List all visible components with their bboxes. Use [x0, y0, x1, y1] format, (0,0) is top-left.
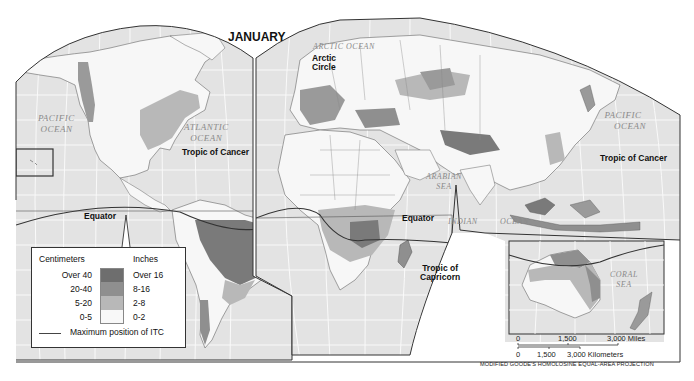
scale-km-zero: 0: [516, 350, 520, 359]
atlantic-line1: ATLANTIC: [184, 122, 229, 133]
legend-header-cm: Centimeters: [39, 254, 85, 264]
scale-km-max: 3,000 Kilometers: [567, 350, 623, 359]
ocean-label-pacific-east: PACIFIC OCEAN: [600, 110, 646, 132]
ocean-label-ocean: OCEAN: [500, 217, 529, 227]
australia-inset: [509, 241, 664, 334]
legend: Centimeters Inches Over 40 Over 16 20-40…: [31, 247, 186, 348]
equator-label-west: Equator: [84, 212, 116, 221]
scale-bar: [518, 343, 618, 349]
scale-miles-zero: 0: [516, 334, 520, 343]
itc-label: Maximum position of ITC: [70, 327, 164, 337]
ocean-label-arctic: ARCTIC OCEAN: [313, 42, 375, 52]
ocean-label-coral-sea: CORAL SEA: [610, 270, 638, 289]
legend-row-0-in: Over 16: [133, 268, 163, 282]
ocean-label-indian: INDIAN: [448, 217, 478, 227]
atlantic-line2: OCEAN: [184, 133, 229, 144]
arctic-circle-label: Arctic Circle: [312, 54, 336, 72]
pacific-east-line2: OCEAN: [614, 121, 646, 132]
map-title: JANUARY: [228, 31, 286, 44]
arabian-line2: SEA: [426, 182, 462, 192]
legend-swatch-over-40: [100, 268, 124, 282]
itc-line-symbol: [39, 333, 61, 334]
legend-swatch-20-40: [100, 282, 124, 296]
tropic-of-capricorn-label: Tropic of Capricorn: [420, 264, 460, 282]
projection-label: MODIFIED GOODE'S HOMOLOSINE EQUAL-AREA P…: [480, 361, 654, 367]
capricorn-line2: Capricorn: [420, 273, 460, 282]
ocean-label-atlantic: ATLANTIC OCEAN: [184, 122, 229, 144]
tropic-of-cancer-label-west: Tropic of Cancer: [182, 148, 249, 157]
legend-row-1-in: 8-16: [133, 282, 150, 296]
legend-row-3-in: 0-2: [133, 310, 145, 324]
legend-swatch-0-5: [100, 310, 124, 324]
ocean-label-arabian-sea: ARABIAN SEA: [426, 172, 462, 191]
legend-row-1-cm: 20-40: [70, 282, 92, 296]
arctic-circle-line2: Circle: [312, 63, 336, 72]
tropic-of-cancer-label-east: Tropic of Cancer: [600, 154, 667, 163]
equator-label-east: Equator: [402, 214, 434, 223]
ocean-label-pacific-west: PACIFIC OCEAN: [38, 113, 75, 135]
scale-km-mid: 1,500: [537, 350, 556, 359]
legend-row-2-in: 2-8: [133, 296, 145, 310]
coral-line1: CORAL: [610, 270, 638, 280]
legend-row-0-cm: Over 40: [62, 268, 92, 282]
legend-row-2-cm: 5-20: [75, 296, 92, 310]
pacific-east-line1: PACIFIC: [600, 110, 646, 121]
legend-row-3-cm: 0-5: [80, 310, 92, 324]
coral-line2: SEA: [610, 280, 638, 290]
arabian-line1: ARABIAN: [426, 172, 462, 182]
scale-miles-max: 3,000 Miles: [607, 334, 645, 343]
scale-miles-mid: 1,500: [558, 334, 577, 343]
pacific-west-line1: PACIFIC: [38, 113, 75, 124]
pacific-west-line2: OCEAN: [38, 124, 75, 135]
legend-swatch-5-20: [100, 296, 124, 310]
legend-header-in: Inches: [133, 254, 158, 264]
